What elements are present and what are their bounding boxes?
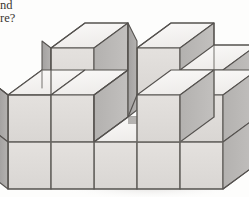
page-root: nd re? xyxy=(0,0,249,197)
cube-stack-geometry xyxy=(0,23,249,189)
cube-stack-figure xyxy=(0,0,249,197)
cube-stack-svg xyxy=(0,0,249,197)
